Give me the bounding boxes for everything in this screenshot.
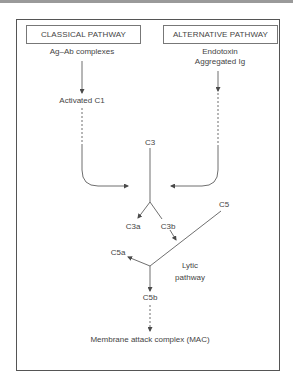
arrow-alt-to-c3 [171, 145, 218, 186]
arrow-c3-to-c3a [138, 202, 150, 218]
arrow-classical-to-c3 [82, 145, 128, 186]
line-c3-to-c3b [150, 202, 162, 219]
arrow-to-c5a [128, 257, 150, 266]
arrow-c3b [170, 230, 176, 240]
line-c5 [150, 211, 221, 266]
pathway-arrows [0, 0, 293, 384]
